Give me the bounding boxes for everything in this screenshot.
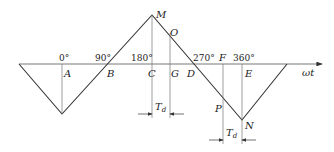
point-label-E: E	[244, 68, 253, 79]
waveform-diagram: ωt 0° 90° 180° 270° 360° A B C G D M O F…	[0, 0, 334, 152]
point-label-N: N	[244, 120, 255, 131]
td-label-2: Td	[226, 127, 238, 140]
point-label-G: G	[171, 68, 179, 79]
point-label-A: A	[63, 68, 71, 79]
point-label-C: C	[148, 68, 156, 79]
td-label-1: Td	[155, 101, 167, 114]
tick-0deg: 0°	[59, 53, 69, 63]
tick-360deg: 360°	[233, 53, 255, 63]
point-label-P: P	[214, 103, 222, 114]
tick-90deg: 90°	[95, 53, 111, 63]
point-label-M: M	[155, 9, 167, 20]
axis-label-omega-t: ωt	[302, 67, 315, 78]
point-label-O: O	[170, 27, 178, 38]
point-label-F: F	[218, 52, 227, 63]
point-label-B: B	[106, 68, 114, 79]
point-label-D: D	[186, 68, 195, 79]
tick-270deg: 270°	[193, 53, 215, 63]
tick-180deg: 180°	[131, 53, 153, 63]
